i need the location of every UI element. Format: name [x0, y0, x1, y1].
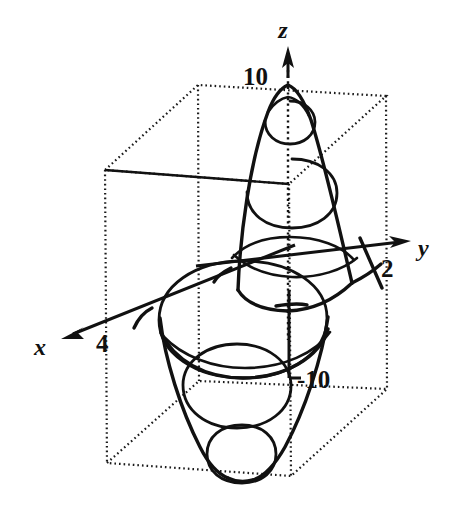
x-axis-label: x — [33, 334, 46, 360]
surface-peak — [214, 85, 382, 311]
peak-contour-mid — [247, 159, 337, 228]
well-tail-right — [276, 304, 307, 306]
well-contour-deep — [207, 425, 276, 483]
peak-base-flange-left — [238, 290, 288, 311]
tick-label-z-top: 10 — [243, 63, 268, 90]
peak-base-flange-right — [288, 283, 352, 311]
axis-group — [61, 46, 411, 378]
x-axis-arrow-icon — [61, 327, 84, 339]
label-group: z y x 10 -10 2 4 — [33, 17, 429, 393]
figure-canvas: z y x 10 -10 2 4 — [0, 0, 455, 516]
bounding-box — [105, 85, 387, 476]
y-axis-label: y — [415, 235, 429, 261]
tick-label-y-extent: 2 — [381, 255, 394, 282]
well-contour-mid — [183, 344, 291, 428]
box-top-face — [105, 85, 386, 184]
surface-plot-figure: z y x 10 -10 2 4 — [0, 0, 455, 516]
z-axis-label: z — [277, 17, 288, 43]
well-tail-left — [134, 308, 152, 328]
tick-label-x-extent: 4 — [96, 330, 109, 357]
box-edge-front-left-vertical — [105, 170, 107, 463]
box-edge-top-front-left-solid — [105, 170, 289, 184]
box-edge-back-left-vertical — [198, 85, 199, 381]
tick-label-z-bottom: -10 — [297, 366, 330, 393]
